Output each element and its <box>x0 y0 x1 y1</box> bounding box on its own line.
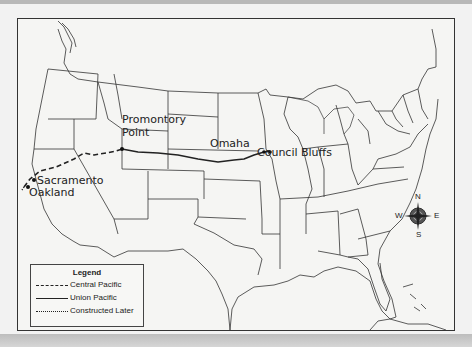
label-oakland: Oakland <box>29 187 75 199</box>
sacramento-marker <box>32 178 36 182</box>
compass-e: E <box>434 211 439 220</box>
legend-title: Legend <box>31 268 143 277</box>
compass-n: N <box>415 192 421 201</box>
top-border-bar <box>0 0 472 4</box>
cuba <box>370 319 446 330</box>
dotted-line-icon <box>36 311 68 312</box>
compass-rose: N S W E <box>398 193 438 239</box>
compass-w: W <box>395 211 403 220</box>
legend: Legend Central Pacific Union Pacific Con… <box>30 264 144 327</box>
label-promontory: Promontory <box>122 114 186 126</box>
label-council-bluffs: Council Bluffs <box>257 147 332 159</box>
legend-item-constructed-later: Constructed Later <box>36 306 142 316</box>
solid-line-icon <box>36 298 68 299</box>
legend-item-central-pacific: Central Pacific <box>36 280 142 290</box>
map-frame: Promontory Point Sacramento Oakland Omah… <box>17 18 455 331</box>
label-point: Point <box>122 127 149 139</box>
label-omaha: Omaha <box>210 138 250 150</box>
constructed-later-route <box>22 187 24 190</box>
promontory-point-marker <box>120 147 124 151</box>
florida <box>348 257 390 311</box>
compass-s: S <box>416 230 421 239</box>
west-coast <box>32 69 80 245</box>
bottom-border-bar <box>0 334 472 347</box>
northern-border <box>58 29 436 111</box>
legend-item-union-pacific: Union Pacific <box>36 293 142 303</box>
dashed-line-icon <box>36 285 68 286</box>
